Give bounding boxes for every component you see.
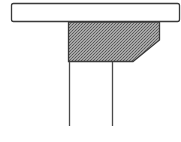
bracket-diagram xyxy=(0,0,181,142)
top-plank xyxy=(12,4,180,22)
shaded-block xyxy=(69,22,160,62)
